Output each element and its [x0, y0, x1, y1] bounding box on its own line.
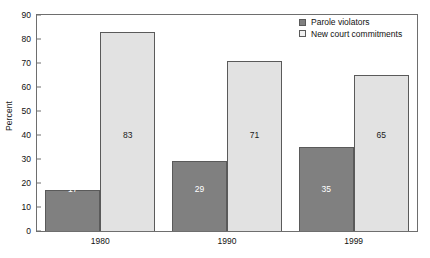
y-axis-tick-label: 20: [22, 178, 37, 188]
y-axis-tick-label: 30: [22, 154, 37, 164]
y-axis-tick-label: 70: [22, 58, 37, 68]
bar: 83: [100, 32, 155, 231]
bar: 65: [354, 75, 409, 231]
chart-legend: Parole violatorsNew court commitments: [299, 18, 402, 38]
bar-value-label: 29: [173, 185, 226, 194]
x-axis-tick-label: 1990: [172, 236, 282, 252]
y-axis-title: Percent: [2, 0, 16, 232]
bar: 29: [172, 161, 227, 231]
bar-chart: Percent 0102030405060708090 178329713565…: [0, 0, 430, 258]
bar-groups: 178329713565: [37, 15, 417, 231]
bar: 35: [299, 147, 354, 231]
light-gray-swatch: [299, 30, 306, 37]
y-axis-title-text: Percent: [4, 101, 14, 131]
y-axis-tick-label: 60: [22, 82, 37, 92]
y-axis-tick-label: 10: [22, 202, 37, 212]
bar-group: 3565: [299, 15, 409, 231]
x-axis-tick-label: 1999: [299, 236, 409, 252]
bar-value-label: 83: [101, 131, 154, 140]
legend-item[interactable]: New court commitments: [299, 30, 402, 39]
y-axis-tick-label: 50: [22, 106, 37, 116]
bar-value-label: 35: [300, 185, 353, 194]
legend-item[interactable]: Parole violators: [299, 18, 402, 27]
bar: 17: [45, 190, 100, 231]
x-axis-labels: 198019901999: [37, 236, 417, 252]
bar-value-label: 71: [228, 131, 281, 140]
y-axis-tick-label: 0: [26, 226, 37, 236]
bar-value-label: 65: [355, 131, 408, 140]
dark-gray-swatch: [299, 19, 306, 26]
y-axis-tick-label: 80: [22, 34, 37, 44]
x-axis-tick-label: 1980: [45, 236, 155, 252]
bar-group: 2971: [172, 15, 282, 231]
bar-group: 1783: [45, 15, 155, 231]
legend-item-label: New court commitments: [311, 30, 402, 39]
bar-value-label: 17: [46, 185, 99, 194]
y-axis-tick-label: 40: [22, 130, 37, 140]
bar: 71: [227, 61, 282, 231]
y-axis-tick-label: 90: [22, 10, 37, 20]
legend-item-label: Parole violators: [311, 18, 370, 27]
